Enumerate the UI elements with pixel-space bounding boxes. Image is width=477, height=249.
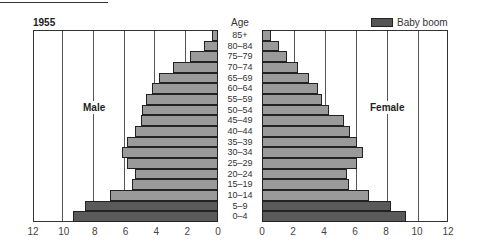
age-group-label: 20–24 xyxy=(218,169,262,180)
male-bar xyxy=(152,83,218,94)
x-tick-label: 2 xyxy=(177,226,197,237)
female-bar xyxy=(262,41,279,52)
female-bar xyxy=(262,158,357,169)
x-tick-label: 0 xyxy=(252,226,272,237)
female-label: Female xyxy=(368,101,406,114)
male-bar xyxy=(73,211,218,222)
age-group-label: 30–34 xyxy=(218,147,262,158)
female-bar xyxy=(262,115,344,126)
male-bar xyxy=(110,190,218,201)
female-bar xyxy=(262,83,318,94)
age-group-label: 10–14 xyxy=(218,190,262,201)
age-group-label: 70–74 xyxy=(218,62,262,73)
female-bar xyxy=(262,179,349,190)
gridline xyxy=(387,31,388,221)
x-tick-label: 8 xyxy=(376,226,396,237)
chart-title: 1955 xyxy=(33,17,55,28)
age-group-label: 15–19 xyxy=(218,179,262,190)
female-bar xyxy=(262,30,271,41)
gridline xyxy=(418,31,419,221)
male-bar xyxy=(135,169,218,180)
female-bar xyxy=(262,211,406,222)
age-group-label: 55–59 xyxy=(218,94,262,105)
x-tick-label: 2 xyxy=(283,226,303,237)
male-bar xyxy=(127,158,218,169)
age-group-label: 85+ xyxy=(218,30,262,41)
gridline xyxy=(93,31,94,221)
female-bar xyxy=(262,137,357,148)
male-bar xyxy=(135,126,218,137)
age-group-label: 0–4 xyxy=(218,211,262,222)
legend-label: Baby boom xyxy=(397,17,448,28)
age-group-label: 75–79 xyxy=(218,51,262,62)
male-bar xyxy=(141,115,218,126)
male-bar xyxy=(122,147,218,158)
age-group-label: 5–9 xyxy=(218,201,262,212)
female-bar xyxy=(262,169,347,180)
age-group-label: 25–29 xyxy=(218,158,262,169)
age-group-label: 80–84 xyxy=(218,41,262,52)
x-tick-label: 4 xyxy=(146,226,166,237)
x-tick-label: 10 xyxy=(54,226,74,237)
x-tick-label: 10 xyxy=(407,226,427,237)
male-bar xyxy=(146,94,218,105)
male-panel xyxy=(33,30,218,222)
male-bar xyxy=(132,179,218,190)
female-bar xyxy=(262,201,391,212)
female-bar xyxy=(262,126,350,137)
male-bar xyxy=(173,62,218,73)
age-group-label: 50–54 xyxy=(218,105,262,116)
male-bar xyxy=(127,137,218,148)
age-group-label: 40–44 xyxy=(218,126,262,137)
female-bar xyxy=(262,105,329,116)
age-group-label: 65–69 xyxy=(218,73,262,84)
female-bar xyxy=(262,62,298,73)
x-tick-label: 4 xyxy=(314,226,334,237)
male-bar xyxy=(85,201,218,212)
male-bar xyxy=(190,51,218,62)
header-rule xyxy=(0,2,108,3)
female-bar xyxy=(262,94,322,105)
gridline xyxy=(62,31,63,221)
x-tick-label: 6 xyxy=(345,226,365,237)
age-group-label: 45–49 xyxy=(218,115,262,126)
female-bar xyxy=(262,190,369,201)
female-panel xyxy=(262,30,448,222)
male-bar xyxy=(142,105,218,116)
age-group-label: 35–39 xyxy=(218,137,262,148)
x-tick-label: 0 xyxy=(208,226,228,237)
legend: Baby boom xyxy=(371,17,448,28)
female-bar xyxy=(262,73,309,84)
age-axis-title: Age xyxy=(228,17,252,28)
x-tick-label: 12 xyxy=(23,226,43,237)
female-bar xyxy=(262,51,287,62)
male-bar xyxy=(159,73,218,84)
female-bar xyxy=(262,147,363,158)
x-tick-label: 12 xyxy=(438,226,458,237)
x-tick-label: 8 xyxy=(85,226,105,237)
male-bar xyxy=(204,41,218,52)
male-label: Male xyxy=(81,101,107,114)
age-group-label: 60–64 xyxy=(218,83,262,94)
legend-swatch-baby-boom xyxy=(371,18,393,27)
x-tick-label: 6 xyxy=(116,226,136,237)
